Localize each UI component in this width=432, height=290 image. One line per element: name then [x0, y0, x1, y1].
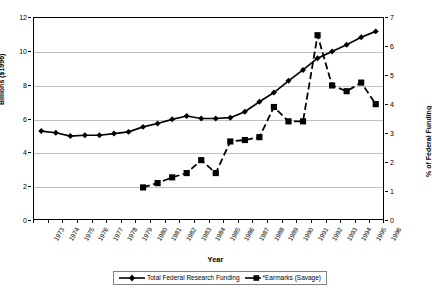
- series-layer: [34, 18, 383, 219]
- series-total-federal-research-funding: [38, 28, 378, 139]
- x-axis-tickmark: [150, 220, 151, 223]
- x-axis-tickmark: [62, 220, 63, 223]
- x-axis-tickmark: [326, 220, 327, 223]
- y-axis-right-tickmark: [385, 17, 388, 18]
- x-axis-tickmark: [165, 220, 166, 223]
- diamond-marker: [329, 49, 335, 55]
- square-marker-icon: [245, 274, 261, 282]
- diamond-marker: [53, 130, 59, 136]
- square-marker: [285, 118, 291, 124]
- x-axis-tick-label: 1978: [126, 226, 139, 242]
- y-axis-left-tickmark: [28, 85, 31, 86]
- diamond-marker: [344, 42, 350, 48]
- diamond-marker: [126, 129, 132, 135]
- y-axis-left-tick-label: 8: [23, 81, 27, 88]
- diamond-marker: [227, 115, 233, 121]
- x-axis-tickmark: [252, 220, 253, 223]
- x-axis-tickmark: [121, 220, 122, 223]
- legend-item-total-federal-research-funding: Total Federal Research Funding: [119, 274, 240, 282]
- x-axis-tick-label: 1988: [272, 226, 285, 242]
- x-axis-tickmark: [135, 220, 136, 223]
- y-axis-left-tick-label: 10: [19, 47, 27, 54]
- square-marker: [169, 174, 175, 180]
- y-axis-left-tick-label: 6: [23, 115, 27, 122]
- diamond-marker: [155, 121, 161, 127]
- x-axis-tick-label: 1995: [374, 226, 387, 242]
- x-axis-tick-label: 1981: [170, 226, 183, 242]
- x-axis-tickmark: [223, 220, 224, 223]
- diamond-marker: [96, 132, 102, 138]
- x-axis-tickmark: [238, 220, 239, 223]
- y-axis-left-tickmark: [28, 51, 31, 52]
- x-axis-tickmark: [77, 220, 78, 223]
- diamond-marker-icon: [119, 274, 145, 282]
- square-marker: [227, 138, 233, 144]
- series-line: [143, 35, 376, 187]
- x-axis-tickmark: [383, 220, 384, 223]
- square-marker: [155, 180, 161, 186]
- x-axis-tickmark: [267, 220, 268, 223]
- square-marker: [329, 82, 335, 88]
- y-axis-left-tickmark: [28, 119, 31, 120]
- y-axis-left-tick-label: 2: [23, 183, 27, 190]
- y-axis-left-tick-label: 12: [19, 14, 27, 21]
- x-axis-tick-label: 1975: [82, 226, 95, 242]
- y-axis-right-tick-label: 0: [390, 217, 394, 224]
- diamond-marker: [198, 116, 204, 122]
- square-marker: [373, 101, 379, 107]
- y-axis-right-tickmark: [385, 46, 388, 47]
- y-axis-right-tick-label: 6: [390, 43, 394, 50]
- diamond-marker: [82, 132, 88, 138]
- y-axis-right-tick-label: 2: [390, 159, 394, 166]
- legend-label: Total Federal Research Funding: [147, 274, 240, 282]
- y-axis-left-tick-label: 0: [23, 217, 27, 224]
- diamond-marker: [358, 34, 364, 40]
- x-axis-tick-label: 1991: [316, 226, 329, 242]
- y-axis-left-title: Billions ($1996): [0, 54, 5, 105]
- diamond-marker: [67, 133, 73, 139]
- diamond-marker: [38, 128, 44, 134]
- y-axis-left-tickmark: [28, 220, 31, 221]
- x-axis-tick-label: 1982: [184, 226, 197, 242]
- y-axis-left-tickmark: [28, 152, 31, 153]
- legend-label: *Earmarks (Savage): [263, 274, 322, 282]
- x-axis-tick-label: 1990: [301, 226, 314, 242]
- x-axis-tickmark: [179, 220, 180, 223]
- x-axis-tickmark: [33, 220, 34, 223]
- y-axis-right-tick-label: 4: [390, 101, 394, 108]
- x-axis-tick-label: 1992: [330, 226, 343, 242]
- square-marker: [198, 157, 204, 163]
- square-marker: [344, 88, 350, 94]
- x-axis-tick-label: 1987: [257, 226, 270, 242]
- square-marker: [184, 170, 190, 176]
- y-axis-right-tick-label: 5: [390, 72, 394, 79]
- series-earmarks-savage: [140, 32, 379, 190]
- y-axis-right-tickmark: [385, 220, 388, 221]
- x-axis-tickmark: [340, 220, 341, 223]
- y-axis-left-tickmark: [28, 17, 31, 18]
- y-axis-right-tickmark: [385, 104, 388, 105]
- legend-item-earmarks-savage: *Earmarks (Savage): [245, 274, 322, 282]
- y-axis-right-tick-label: 1: [390, 188, 394, 195]
- y-axis-left: Billions ($1996) 024681012: [0, 17, 31, 220]
- x-axis-tick-label: 1980: [155, 226, 168, 242]
- y-axis-right-tick-label: 7: [390, 14, 394, 21]
- x-axis-tickmark: [296, 220, 297, 223]
- y-axis-right-tick-label: 3: [390, 130, 394, 137]
- x-axis-tick-label: 1993: [345, 226, 358, 242]
- y-axis-right-tickmark: [385, 191, 388, 192]
- x-axis-tickmark: [282, 220, 283, 223]
- x-axis-tick-label: 1983: [199, 226, 212, 242]
- diamond-marker: [111, 131, 117, 137]
- x-axis-tick-label: 1973: [53, 226, 66, 242]
- x-axis-tick-label: 1979: [140, 226, 153, 242]
- x-axis-tickmark: [194, 220, 195, 223]
- x-axis-tick-label: 1986: [243, 226, 256, 242]
- x-axis-tickmark: [106, 220, 107, 223]
- chart-legend: Total Federal Research Funding *Earmarks…: [113, 271, 327, 285]
- y-axis-right: % of Federal Funding 01234567: [385, 17, 431, 220]
- x-axis-tickmark: [355, 220, 356, 223]
- square-marker: [140, 184, 146, 190]
- x-axis-tick-label: 1985: [228, 226, 241, 242]
